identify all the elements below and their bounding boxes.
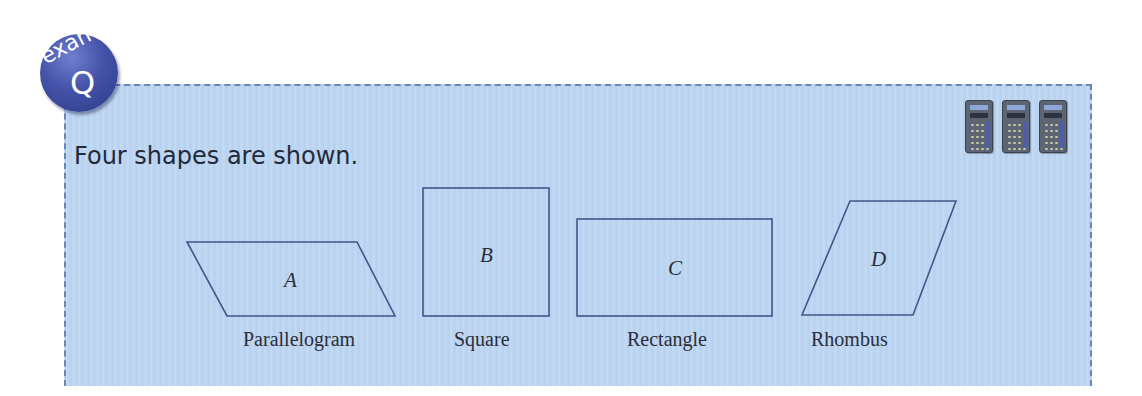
shape-label-parallelogram: Parallelogram <box>243 328 355 351</box>
exam-q-badge-icon: exam Q <box>40 34 118 112</box>
shape-label-rhombus: Rhombus <box>811 328 888 351</box>
shape-letter-b: B <box>480 243 493 268</box>
badge-letter: Q <box>70 64 95 102</box>
shape-label-rectangle: Rectangle <box>627 328 707 351</box>
shape-letter-d: D <box>871 247 886 272</box>
shape-letter-a: A <box>284 268 297 293</box>
shape-letter-c: C <box>668 256 682 281</box>
shapes-diagram <box>0 0 1142 396</box>
shape-label-square: Square <box>454 328 510 351</box>
